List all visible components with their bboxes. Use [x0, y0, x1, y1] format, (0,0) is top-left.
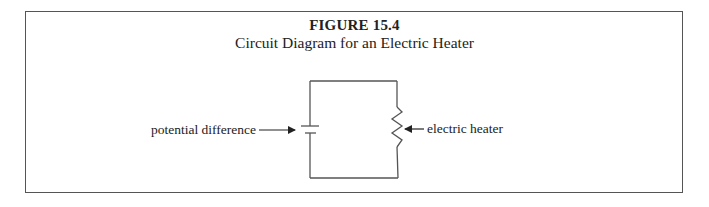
wire-right-lower [397, 147, 398, 178]
heater-label: electric heater [427, 121, 503, 137]
circuit-diagram [0, 0, 709, 207]
resistor-zigzag [392, 107, 402, 147]
battery-label: potential difference [151, 122, 256, 138]
